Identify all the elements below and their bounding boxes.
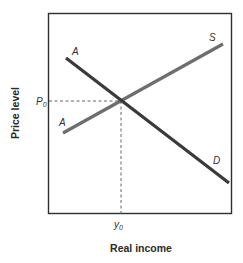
y-axis-title: Price level <box>9 87 21 139</box>
chart-canvas: A D A S P0 y0 Real income Price level <box>0 0 243 263</box>
ad-start-label: A <box>71 46 79 57</box>
as-start-label: A <box>58 117 66 128</box>
as-end-label: S <box>209 32 216 43</box>
aggregate-demand-line <box>66 58 229 183</box>
x-axis-title: Real income <box>110 242 172 254</box>
aggregate-supply-line <box>63 44 223 133</box>
p0-label: P0 <box>36 96 47 108</box>
ad-end-label: D <box>213 155 220 166</box>
y0-label: y0 <box>113 219 123 231</box>
